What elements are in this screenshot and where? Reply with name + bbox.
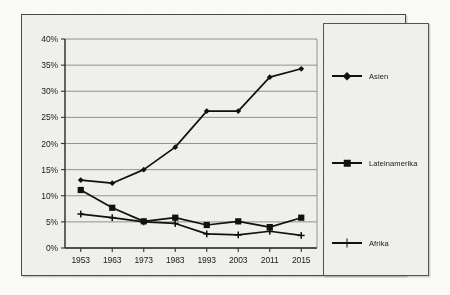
- diamond-marker-icon: [343, 72, 351, 80]
- x-tick-label: 2011: [261, 255, 279, 265]
- legend-line-swatch: [332, 162, 362, 164]
- x-tick-label: 1953: [71, 255, 90, 265]
- legend-entry-lateinamerika[interactable]: Lateinamerika: [332, 157, 417, 169]
- plus-marker-icon: [343, 239, 352, 248]
- legend-label: Lateinamerika: [369, 159, 417, 168]
- legend-entry-asien[interactable]: Asien: [332, 70, 388, 82]
- chart-legend: AsienLateinamerikaAfrika: [323, 23, 429, 276]
- x-tick-label: 1973: [134, 255, 153, 265]
- x-tick-label: 1963: [103, 255, 122, 265]
- legend-line-swatch: [332, 242, 362, 244]
- legend-label: Asien: [369, 72, 388, 81]
- x-tick-label: 2003: [229, 255, 248, 265]
- x-axis-tick-labels: 19531963197319831993200320112015: [22, 15, 322, 277]
- x-tick-label: 1993: [197, 255, 216, 265]
- x-tick-label: 1983: [166, 255, 185, 265]
- chart-figure: 0%5%10%15%20%25%30%35%40% 19531963197319…: [21, 14, 406, 276]
- legend-entry-afrika[interactable]: Afrika: [332, 237, 389, 249]
- x-tick-label: 2015: [292, 255, 311, 265]
- legend-label: Afrika: [369, 239, 389, 248]
- square-marker-icon: [344, 160, 351, 167]
- legend-line-swatch: [332, 75, 362, 77]
